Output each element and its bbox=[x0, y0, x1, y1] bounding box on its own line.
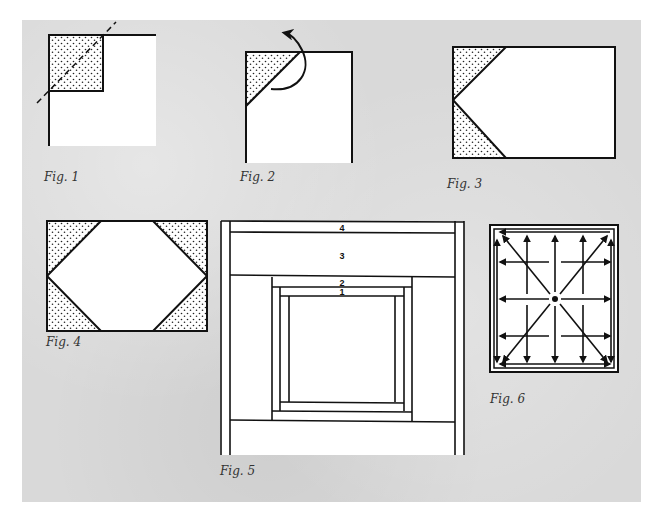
fig5-label-4: 4 bbox=[339, 223, 344, 233]
fig5-strip1-lower bbox=[272, 411, 412, 412]
fig5-center-bottom bbox=[280, 402, 404, 403]
fig4-caption: Fig. 4 bbox=[46, 335, 81, 349]
fig5-label-3: 3 bbox=[339, 251, 344, 261]
fig6-caption: Fig. 6 bbox=[490, 392, 525, 406]
fig5-top-line bbox=[221, 221, 464, 222]
figure-1 bbox=[37, 22, 156, 146]
fig5-label-1: 1 bbox=[339, 287, 344, 297]
fig3-caption: Fig. 3 bbox=[447, 177, 482, 191]
fig2-caption: Fig. 2 bbox=[240, 170, 275, 184]
fig1-caption: Fig. 1 bbox=[44, 170, 79, 184]
fig5-caption: Fig. 5 bbox=[220, 464, 255, 478]
figure-6 bbox=[490, 225, 618, 372]
fig6-center-point bbox=[552, 296, 558, 302]
figure-4 bbox=[47, 221, 207, 331]
figure-2 bbox=[246, 33, 352, 163]
diagram-canvas: 4 3 2 1 bbox=[0, 0, 661, 522]
figure-3 bbox=[453, 47, 615, 158]
